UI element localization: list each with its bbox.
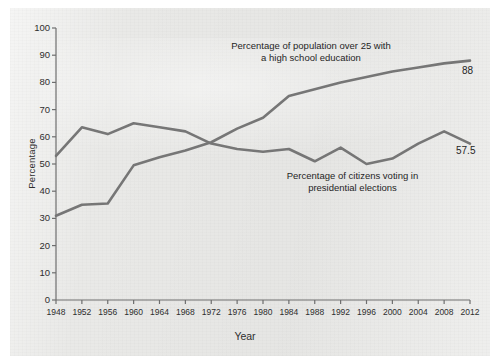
x-axis-tick-label: 2012 <box>453 308 487 317</box>
y-axis-tick-label: 20 <box>14 241 50 250</box>
series-line-voting <box>56 123 470 164</box>
y-axis-tick-label: 80 <box>14 77 50 86</box>
figure: 0102030405060708090100 19481952195619601… <box>0 0 490 356</box>
y-axis-tick-label: 90 <box>14 50 50 59</box>
annotation-voting-series: Percentage of citizens voting in preside… <box>240 170 465 194</box>
y-axis-tick-label: 70 <box>14 105 50 114</box>
annotation-education-series: Percentage of population over 25 with a … <box>196 40 426 64</box>
x-axis-title: Year <box>0 330 490 342</box>
end-value-label-voting: 57.5 <box>456 146 475 156</box>
y-axis-tick-label: 10 <box>14 268 50 277</box>
y-axis-tick-label: 0 <box>14 295 50 304</box>
y-axis-tick-label: 100 <box>14 23 50 32</box>
y-axis-tick-label: 30 <box>14 213 50 222</box>
y-axis-title: Percentage <box>26 124 37 204</box>
end-value-label-education: 88 <box>462 66 473 76</box>
